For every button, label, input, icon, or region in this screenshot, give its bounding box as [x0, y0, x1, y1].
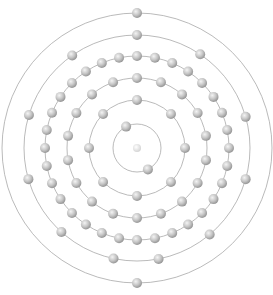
electron-icon — [47, 178, 57, 188]
electron-icon — [132, 235, 142, 245]
electron-icon — [87, 89, 97, 99]
electron-icon — [40, 143, 50, 153]
electron-icon — [81, 67, 91, 77]
electron-icon — [166, 177, 176, 187]
electron-icon — [121, 122, 131, 132]
electron-icon — [224, 143, 234, 153]
electron-icon — [143, 164, 153, 174]
electron-icon — [167, 58, 177, 68]
electron-icon — [63, 155, 73, 165]
nucleus — [133, 144, 141, 152]
electron-icon — [108, 209, 118, 219]
electron-icon — [132, 95, 142, 105]
electron-icon — [24, 110, 34, 120]
electron-icon — [109, 254, 119, 264]
electron-icon — [71, 178, 81, 188]
electron-icon — [87, 197, 97, 207]
electron-icon — [180, 143, 190, 153]
electron-icon — [132, 73, 142, 83]
electron-icon — [132, 30, 142, 40]
electron-icon — [71, 108, 81, 118]
electron-icon — [56, 92, 66, 102]
electron-icon — [23, 174, 33, 184]
electron-icon — [183, 220, 193, 230]
electron-icon — [132, 8, 142, 18]
electron-icon — [222, 125, 232, 135]
electron-icon — [217, 108, 227, 118]
electron-icon — [209, 194, 219, 204]
electron-icon — [97, 58, 107, 68]
electron-icon — [193, 108, 203, 118]
nucleus-icon — [133, 144, 141, 152]
electron-icon — [156, 77, 166, 87]
electron-icon — [167, 228, 177, 238]
electron-icon — [150, 53, 160, 63]
electron-icon — [177, 197, 187, 207]
electron-icon — [56, 194, 66, 204]
electron-icon — [209, 92, 219, 102]
electron-icon — [114, 53, 124, 63]
electron-icon — [47, 108, 57, 118]
electron-icon — [197, 208, 207, 218]
electron-icon — [241, 174, 251, 184]
electron-icon — [42, 161, 52, 171]
electron-icon — [63, 131, 73, 141]
electron-icon — [42, 125, 52, 135]
electron-icon — [67, 78, 77, 88]
electron-icon — [84, 143, 94, 153]
electron-icon — [183, 67, 193, 77]
electron-icon — [195, 49, 205, 59]
electron-icon — [132, 213, 142, 223]
electron-icon — [132, 278, 142, 288]
electron-icon — [197, 78, 207, 88]
electron-icon — [97, 228, 107, 238]
electron-icon — [166, 109, 176, 119]
electron-icon — [81, 220, 91, 230]
electron-icon — [150, 233, 160, 243]
electron-icon — [201, 155, 211, 165]
electron-icon — [217, 178, 227, 188]
electron-icon — [67, 208, 77, 218]
electron-icon — [205, 230, 215, 240]
electron-icon — [132, 51, 142, 61]
electron-icon — [98, 109, 108, 119]
electron-icon — [222, 161, 232, 171]
electron-icon — [98, 177, 108, 187]
electron-icon — [114, 233, 124, 243]
electron-icon — [177, 89, 187, 99]
bohr-model-diagram — [0, 0, 273, 295]
electron-icon — [108, 77, 118, 87]
electron-icon — [156, 209, 166, 219]
electron-icon — [56, 227, 66, 237]
electron-icon — [132, 191, 142, 201]
electron-icon — [154, 254, 164, 264]
electron-icon — [67, 50, 77, 60]
electron-icon — [201, 131, 211, 141]
electron-icon — [193, 178, 203, 188]
electron-icon — [241, 112, 251, 122]
